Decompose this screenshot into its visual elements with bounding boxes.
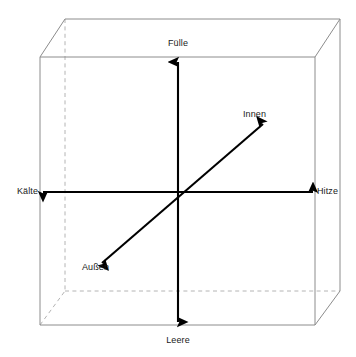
axis-label-left: Kälte [17, 186, 38, 197]
cube-hidden-edges [40, 19, 340, 325]
diagonal-axis-arrow [102, 124, 263, 263]
axis-label-right: Hitze [317, 186, 338, 197]
cube-edge-top-right-diagonal [315, 19, 340, 57]
cube-hidden-edge-bottom-left-diagonal [40, 291, 65, 325]
cube-visible-edges [40, 19, 340, 325]
axis-label-upper-right: Innen [243, 109, 266, 120]
axis-label-bottom: Leere [166, 335, 190, 346]
axis-label-lower-left: Außen [82, 262, 109, 273]
cube-edge-bottom-right-diagonal [315, 291, 340, 325]
diagram-canvas: Fülle Leere Kälte Hitze Innen Außen [0, 0, 356, 357]
diagram-graphic [0, 0, 356, 357]
cube-edge-top-left-diagonal [40, 19, 65, 57]
axis-label-top: Fülle [168, 38, 188, 49]
axis-arrows [43, 62, 313, 322]
